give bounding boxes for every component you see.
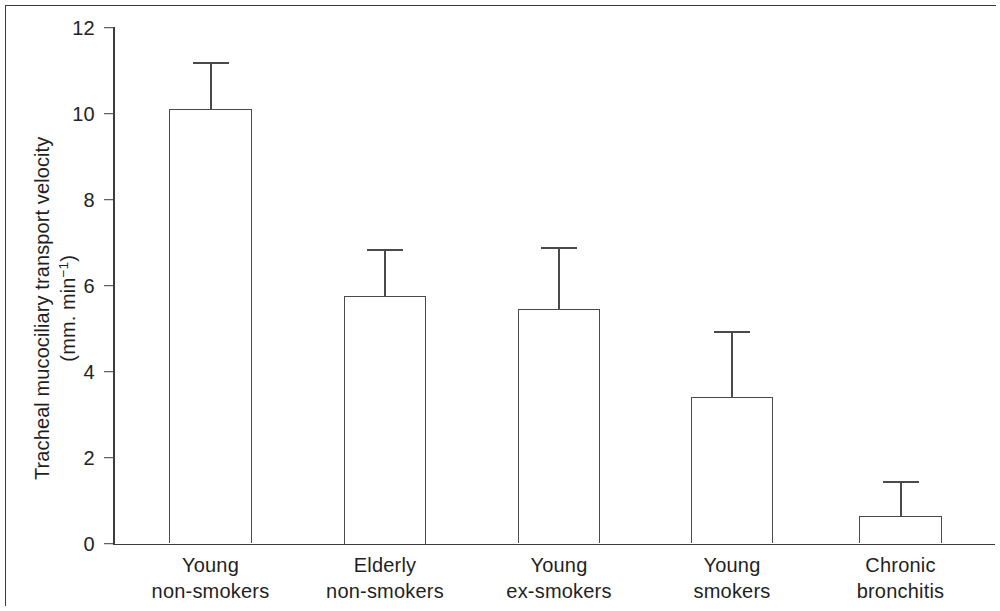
x-axis-label-1: Youngnon-smokers — [111, 552, 311, 605]
x-axis-label-line: Young — [111, 552, 311, 578]
error-bar-cap-5 — [883, 481, 919, 483]
x-axis-label-2: Elderlynon-smokers — [285, 552, 485, 605]
x-axis-label-3: Youngex-smokers — [459, 552, 659, 605]
error-bar-stem-5 — [900, 481, 902, 515]
error-bar-stem-4 — [731, 331, 733, 398]
bar-1 — [169, 109, 252, 543]
x-axis-label-5: Chronicbronchitis — [801, 552, 1000, 605]
y-axis-line — [113, 27, 115, 545]
bar-4 — [691, 397, 773, 543]
x-axis-label-line: Young — [459, 552, 659, 578]
y-tick-mark — [104, 543, 113, 545]
y-tick-mark — [104, 27, 113, 29]
x-axis-line — [113, 544, 995, 546]
bar-5 — [859, 516, 942, 544]
x-axis-label-line: Chronic — [801, 552, 1000, 578]
error-bar-stem-3 — [558, 247, 560, 309]
figure-page: 024681012 Youngnon-smokersElderlynon-smo… — [0, 0, 1000, 611]
y-tick-mark — [104, 457, 113, 459]
error-bar-stem-2 — [384, 249, 386, 296]
bar-2 — [344, 296, 426, 543]
y-axis-title-units: (mm. min−1) — [55, 48, 82, 568]
x-axis-label-line: bronchitis — [801, 578, 1000, 604]
y-axis-title: Tracheal mucociliary transport velocity … — [29, 48, 82, 568]
y-tick-mark — [104, 285, 113, 287]
x-axis-label-line: ex-smokers — [459, 578, 659, 604]
x-axis-label-line: non-smokers — [285, 578, 485, 604]
y-axis-units-exponent: −1 — [56, 262, 71, 278]
bar-3 — [518, 309, 600, 543]
x-axis-label-line: Elderly — [285, 552, 485, 578]
error-bar-cap-3 — [541, 247, 577, 249]
y-tick-mark — [104, 371, 113, 373]
y-axis-title-main: Tracheal mucociliary transport velocity — [31, 137, 53, 480]
error-bar-cap-4 — [714, 331, 750, 333]
figure-frame-left-border — [5, 5, 6, 606]
error-bar-cap-2 — [367, 249, 403, 251]
y-tick-mark — [104, 199, 113, 201]
error-bar-cap-1 — [193, 62, 229, 64]
y-tick-label: 12 — [55, 18, 95, 38]
error-bar-stem-1 — [210, 62, 212, 109]
y-axis-units-suffix: ) — [57, 255, 79, 262]
figure-frame-top-border — [5, 5, 996, 6]
y-tick-mark — [104, 113, 113, 115]
x-axis-label-line: non-smokers — [111, 578, 311, 604]
y-axis-units-prefix: (mm. min — [57, 278, 79, 362]
